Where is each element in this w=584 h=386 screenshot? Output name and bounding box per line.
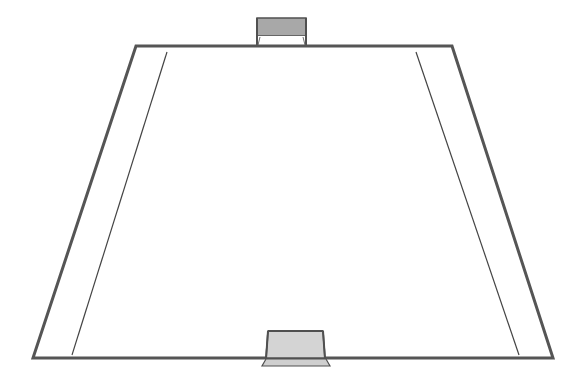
far-goal-net	[257, 18, 306, 36]
far-goal	[257, 18, 306, 46]
near-goal-base	[262, 359, 330, 366]
field-diagram	[0, 0, 584, 386]
near-goal-net	[266, 331, 325, 358]
near-goal	[262, 331, 330, 366]
